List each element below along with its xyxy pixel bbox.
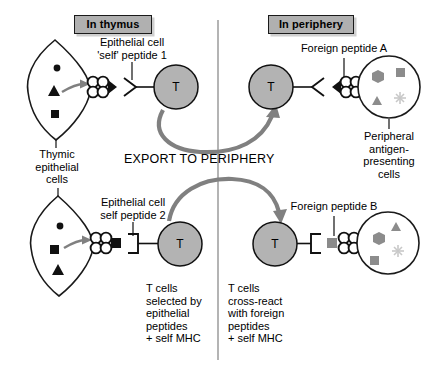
t-cell-receptor-top-left — [124, 78, 155, 96]
label-self-peptide-1: Epithelial cell 'self' peptide 1 — [78, 36, 186, 61]
header-in-thymus: In thymus — [74, 15, 152, 34]
mhc-complex-bottom-left — [91, 233, 121, 254]
symbol-square — [51, 110, 59, 118]
header-in-periphery: In periphery — [268, 15, 354, 34]
peptide-dark-square-bottom-left — [111, 238, 121, 248]
t-cell-label-top-left: T — [156, 80, 196, 94]
mhc-complex-bottom-right — [327, 233, 359, 254]
t-cell-label-bottom-left: T — [160, 237, 200, 251]
t-cell-receptor-bottom-right — [297, 234, 321, 253]
label-export-to-periphery: EXPORT TO PERIPHERY — [124, 152, 275, 166]
label-self-peptide-2: Epithelial cell self peptide 2 — [80, 196, 186, 221]
symbol-circle — [57, 223, 64, 230]
t-cell-receptor-top-right — [293, 78, 324, 96]
peptide-dark-triangle-top-left — [108, 80, 117, 94]
symbol-square — [396, 68, 405, 77]
caption-t-cells-selected: T cells selected by epithelial peptides … — [146, 282, 212, 345]
peptide-gray-square-bottom-right — [327, 238, 337, 248]
t-cell-label-bottom-right: T — [255, 237, 295, 251]
t-cell-receptor-bottom-left — [128, 234, 158, 253]
label-foreign-peptide-b: Foreign peptide B — [268, 200, 400, 213]
t-cell-label-top-right: T — [251, 80, 291, 94]
label-thymic-epithelial-cells: Thymic epithelial cells — [16, 148, 98, 186]
peptide-dark-triangle-top-right — [332, 80, 341, 94]
peripheral-apc-bottom — [357, 212, 419, 274]
diagram-canvas — [0, 0, 431, 374]
mhc-complex-top-right — [332, 77, 361, 98]
symbol-square — [370, 256, 379, 265]
mhc-complex-top-left — [88, 77, 117, 98]
export-arrow-upper — [159, 104, 280, 152]
peripheral-apc-top — [358, 56, 420, 118]
label-foreign-peptide-a: Foreign peptide A — [278, 42, 410, 55]
caption-t-cells-crossreact: T cells cross-react with foreign peptide… — [228, 282, 302, 345]
symbol-square — [50, 245, 59, 254]
symbol-circle — [54, 65, 61, 72]
immunology-diagram: In thymus In periphery Epithelial cell '… — [0, 0, 431, 374]
label-peripheral-apc: Peripheral antigen- presenting cells — [347, 130, 431, 180]
